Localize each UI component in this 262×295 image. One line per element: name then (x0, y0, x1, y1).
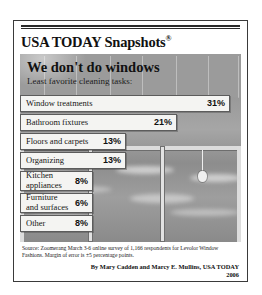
bar-label: Organizing (21, 156, 100, 166)
bar-label: Other (21, 219, 72, 229)
masthead-brand: USA TODAY Snapshots (21, 34, 166, 50)
bar-other: Other 8% (20, 215, 93, 232)
bar-chart: Window treatments 31% Bathroom fixtures … (20, 95, 241, 234)
bar-value: 31% (204, 98, 229, 108)
masthead-rule-bottom (21, 28, 240, 29)
bar-value: 13% (100, 136, 125, 146)
bar-label: Floors and carpets (21, 137, 100, 147)
bar-furniture-and-surfaces: Furniture and surfaces 6% (20, 193, 93, 213)
headline-block: We don't do windows Least favorite clean… (27, 59, 160, 87)
bar-value: 21% (151, 117, 176, 127)
bar-label: Window treatments (21, 99, 204, 109)
masthead: USA TODAY Snapshots® (14, 21, 247, 50)
bar-floors-and-carpets: Floors and carpets 13% (20, 133, 126, 150)
bar-row: Other 8% (20, 215, 241, 232)
snapshot-card: USA TODAY Snapshots® (13, 20, 248, 282)
bar-bathroom-fixtures: Bathroom fixtures 21% (20, 114, 177, 131)
chart-headline: We don't do windows (27, 59, 160, 75)
byline-authors: By Mary Cadden and Marcy E. Mullins, USA… (91, 263, 239, 270)
byline-year: 2006 (22, 271, 239, 279)
bar-value: 6% (72, 198, 92, 208)
bar-label: Bathroom fixtures (21, 118, 151, 128)
bar-window-treatments: Window treatments 31% (20, 95, 230, 112)
bar-row: Kitchen appliances 8% (20, 171, 241, 191)
byline: By Mary Cadden and Marcy E. Mullins, USA… (22, 263, 239, 279)
bar-kitchen-appliances: Kitchen appliances 8% (20, 171, 93, 191)
chart-panel: We don't do windows Least favorite clean… (20, 54, 241, 242)
bar-value: 8% (72, 218, 92, 228)
bar-row: Furniture and surfaces 6% (20, 193, 241, 213)
bar-label: Furniture and surfaces (21, 193, 72, 212)
bar-row: Organizing 13% (20, 152, 241, 169)
masthead-title: USA TODAY Snapshots® (21, 31, 240, 50)
chart-subhead: Least favorite cleaning tasks: (27, 76, 160, 87)
bar-row: Bathroom fixtures 21% (20, 114, 241, 131)
bar-label: Kitchen appliances (21, 171, 72, 190)
bar-value: 8% (72, 176, 92, 186)
registered-trademark-icon: ® (166, 34, 172, 43)
source-note: Source: Zoomerang March 3-6 online surve… (22, 245, 239, 259)
masthead-rule-top (21, 25, 240, 27)
bar-row: Window treatments 31% (20, 95, 241, 112)
bar-organizing: Organizing 13% (20, 152, 126, 169)
bar-row: Floors and carpets 13% (20, 133, 241, 150)
bar-value: 13% (100, 155, 125, 165)
